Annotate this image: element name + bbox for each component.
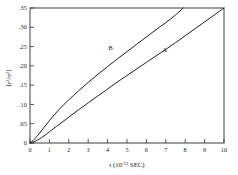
y-axis-title: ⟨r2/σ2⟩ [5, 69, 12, 87]
y-tick-label: .25 [19, 43, 27, 50]
chart-canvas: 0.05.10.15.20.25.30.35 012345678910 BA ⟨… [0, 0, 238, 175]
y-tick-label: .05 [19, 120, 27, 127]
y-tick-label: .30 [19, 23, 27, 30]
x-axis-tick-labels: 012345678910 [28, 146, 227, 153]
y-axis-title-text: ⟨r2/σ2⟩ [5, 69, 12, 87]
x-tick-label: 6 [145, 146, 148, 153]
x-tick-label: 8 [184, 146, 187, 153]
x-tick-label: 10 [221, 146, 227, 153]
curve-label-b: B [108, 44, 112, 51]
curve-label-a: A [163, 46, 168, 53]
y-tick-label: .10 [19, 101, 27, 108]
x-tick-label: 1 [48, 146, 51, 153]
figure-container: 0.05.10.15.20.25.30.35 012345678910 BA ⟨… [0, 0, 238, 175]
y-axis-tick-labels: 0.05.10.15.20.25.30.35 [19, 4, 27, 146]
y-tick-label: .20 [19, 62, 27, 69]
y-tick-label: .35 [19, 4, 27, 11]
x-tick-label: 3 [87, 146, 90, 153]
x-tick-label: 0 [28, 146, 31, 153]
x-tick-label: 7 [164, 146, 167, 153]
x-tick-label: 4 [106, 146, 109, 153]
x-tick-label: 9 [203, 146, 206, 153]
y-tick-label: .15 [19, 81, 27, 88]
x-tick-label: 2 [67, 146, 70, 153]
x-axis-title-text: t (10-13 SEC) [109, 161, 144, 169]
y-tick-label: 0 [24, 139, 27, 146]
x-tick-label: 5 [125, 146, 128, 153]
